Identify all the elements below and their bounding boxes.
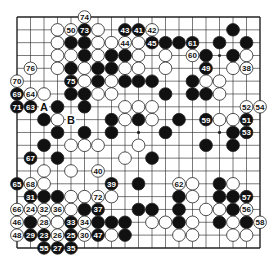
black-stone [105, 49, 118, 62]
go-board-diagram: 7450734341424445616076493870756964716352… [0, 0, 271, 265]
black-stone: 55 [38, 242, 51, 255]
black-stone [105, 126, 118, 139]
white-stone: 66 [11, 203, 24, 216]
white-stone: 24 [24, 203, 37, 216]
black-stone [186, 88, 199, 101]
black-stone: 33 [65, 216, 78, 229]
move-number: 54 [256, 103, 265, 112]
move-number: 66 [13, 205, 22, 214]
move-number: 56 [242, 205, 251, 214]
black-stone [227, 126, 240, 139]
point-label-b: B [67, 114, 75, 126]
white-stone [227, 178, 240, 191]
black-stone: 61 [186, 36, 199, 49]
white-stone: 48 [11, 229, 24, 242]
white-stone: 30 [78, 229, 91, 242]
white-stone [227, 216, 240, 229]
white-stone: 44 [119, 36, 132, 49]
black-stone [213, 190, 226, 203]
black-stone [78, 126, 91, 139]
white-stone: 28 [38, 216, 51, 229]
black-stone [159, 36, 172, 49]
black-stone [65, 62, 78, 75]
white-stone [159, 62, 172, 75]
move-number: 38 [242, 64, 251, 73]
black-stone: 41 [132, 24, 145, 37]
white-stone [132, 49, 145, 62]
black-stone: 57 [240, 190, 253, 203]
white-stone: 56 [240, 203, 253, 216]
white-stone [132, 139, 145, 152]
black-stone [146, 75, 159, 88]
white-stone [65, 49, 78, 62]
black-stone: 53 [240, 126, 253, 139]
white-stone [92, 88, 105, 101]
white-stone [92, 49, 105, 62]
move-number: 49 [202, 64, 211, 73]
white-stone: 46 [11, 216, 24, 229]
black-stone: 65 [11, 178, 24, 191]
black-stone: 35 [65, 242, 78, 255]
white-stone [78, 139, 91, 152]
white-stone [227, 113, 240, 126]
black-stone [51, 126, 64, 139]
white-stone [132, 62, 145, 75]
move-number: 72 [94, 193, 103, 202]
move-number: 41 [134, 26, 143, 35]
black-stone [173, 216, 186, 229]
white-stone [78, 190, 91, 203]
white-stone [92, 36, 105, 49]
white-stone [105, 75, 118, 88]
black-stone [159, 126, 172, 139]
white-stone: 50 [65, 24, 78, 37]
white-stone [240, 49, 253, 62]
move-number: 33 [67, 218, 76, 227]
move-number: 29 [26, 231, 35, 240]
move-number: 73 [80, 26, 89, 35]
white-stone [186, 178, 199, 191]
white-stone [105, 190, 118, 203]
white-stone [78, 62, 91, 75]
move-number: 75 [67, 77, 76, 86]
black-stone [200, 49, 213, 62]
move-number: 53 [242, 128, 251, 137]
black-stone [200, 88, 213, 101]
black-stone [132, 178, 145, 191]
black-stone [173, 190, 186, 203]
white-stone [38, 88, 51, 101]
black-stone: 67 [24, 152, 37, 165]
move-number: 62 [175, 180, 184, 189]
white-stone [65, 203, 78, 216]
black-stone: 49 [200, 62, 213, 75]
white-stone: 70 [11, 75, 24, 88]
white-stone [51, 24, 64, 37]
move-number: 47 [94, 231, 103, 240]
black-stone [240, 36, 253, 49]
black-stone: 47 [92, 229, 105, 242]
move-number: 42 [148, 26, 157, 35]
white-stone: 32 [38, 203, 51, 216]
white-stone [51, 62, 64, 75]
black-stone [213, 216, 226, 229]
black-stone: 63 [24, 101, 37, 114]
white-stone: 60 [186, 49, 199, 62]
black-stone [105, 62, 118, 75]
move-number: 32 [40, 205, 49, 214]
white-stone [105, 88, 118, 101]
white-stone: 68 [24, 178, 37, 191]
go-board: 7450734341424445616076493870756964716352… [0, 0, 271, 265]
black-stone [24, 216, 37, 229]
black-stone [78, 88, 91, 101]
white-stone: 40 [92, 165, 105, 178]
black-stone [227, 139, 240, 152]
move-number: 67 [26, 154, 35, 163]
white-stone [159, 49, 172, 62]
black-stone [51, 190, 64, 203]
white-stone [213, 75, 226, 88]
move-number: 46 [13, 218, 22, 227]
black-stone [227, 190, 240, 203]
move-number: 27 [53, 244, 62, 253]
black-stone [119, 75, 132, 88]
white-stone [213, 113, 226, 126]
black-stone [38, 113, 51, 126]
